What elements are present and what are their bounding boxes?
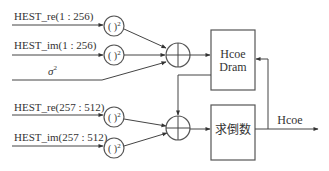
feedback-arrow	[256, 59, 268, 129]
sigma-arrow	[12, 62, 166, 80]
input-re-low: HEST_re(1 : 256)	[12, 10, 103, 25]
hcoe-dram-block: Hcoe Dram	[211, 30, 255, 90]
input-re-high-label: HEST_re(257 : 512)	[14, 101, 105, 114]
input-im-high-label: HEST_im(257 : 512)	[14, 131, 108, 144]
input-im-high: HEST_im(257 : 512)	[12, 131, 108, 146]
input-im-low: HEST_im(1 : 256)	[12, 39, 103, 55]
input-im-low-label: HEST_im(1 : 256)	[14, 39, 97, 52]
input-sigma: σ2	[12, 62, 166, 80]
square-op-1: ( )2	[104, 16, 124, 36]
input-re-low-label: HEST_re(1 : 256)	[14, 10, 94, 23]
adder-top	[166, 43, 190, 67]
input-re-high: HEST_re(257 : 512)	[12, 101, 105, 115]
arrow-sq4-to-adder	[124, 133, 167, 146]
arrow-sq1-to-adder	[124, 29, 166, 48]
dram-label-2: Dram	[219, 60, 247, 74]
dram-label-1: Hcoe	[220, 47, 245, 61]
output-label: Hcoe	[277, 113, 302, 127]
block-diagram: HEST_re(1 : 256) ( )2 HEST_im(1 : 256) (…	[0, 0, 329, 171]
reciprocal-block: 求倒数	[211, 105, 255, 160]
arrow-dram-to-bottom-adder	[178, 75, 211, 115]
sigma-label: σ2	[48, 64, 57, 77]
arrow-sq3-to-adder	[124, 119, 166, 126]
square-op-3: ( )2	[104, 107, 124, 127]
reciprocal-label: 求倒数	[215, 122, 251, 137]
square-op-2: ( )2	[104, 45, 124, 65]
adder-bottom	[166, 116, 190, 140]
square-op-4: ( )2	[104, 138, 124, 158]
